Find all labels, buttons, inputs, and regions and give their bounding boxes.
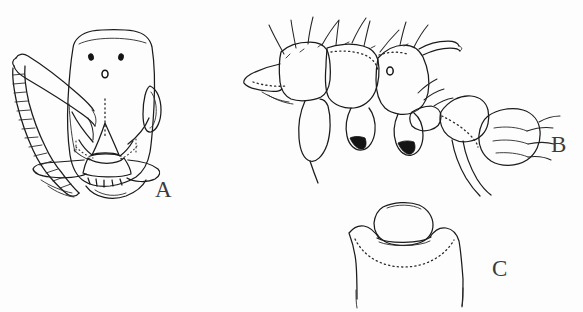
coxa-foreleg [299,99,330,161]
propodeum-outline [376,45,429,114]
panel-b-mesosoma: B [244,17,567,196]
metapleuron-outline [410,106,441,131]
clypeal-support-right [120,141,133,156]
head-vertex-line [79,38,146,44]
clypeus-outline [92,123,119,155]
propodeal-spiracle-icon [387,67,393,75]
panel-c-label: C [492,256,507,281]
clypeus-anterior-margin [90,154,121,156]
clypeal-support-left [79,140,92,155]
panel-b-label: B [551,132,566,157]
ocellus-median-icon [102,70,108,78]
postpetiole-dorsal-outline [374,203,433,246]
petiole-suture-dotted [442,116,478,147]
postpetiole-dorsal-highlight [387,205,421,209]
labrum-outline [83,158,131,177]
frontal-carina-left [72,112,93,142]
mandible-blade-inner [95,190,126,195]
antenna-scape-base-cap [13,58,16,66]
plate-canvas: A [0,0,583,312]
panel-a-label: A [155,177,172,202]
gaster-suture-dotted-arc [355,239,454,267]
ocellus-right-icon [118,53,124,61]
illustration-plate: A [0,0,583,312]
metapleural-setae [418,79,453,106]
leg-stroke-fore [310,161,318,183]
panel-a-head: A [13,30,172,203]
panel-c-petiole-dorsal: C [349,203,507,308]
funiculus-segment-divisions [13,74,71,188]
leg-stroke-hind-lower-2 [463,141,491,195]
petiole-node-outline [440,96,489,142]
leg-stroke-hind-lower [452,140,480,196]
propodeal-process-lower [423,48,460,55]
mesonotum-outline [325,44,379,108]
antenna-scape-upper [16,54,94,111]
head-lateral-margin-left [69,104,75,152]
gaster-tergite-outline [349,226,463,306]
dorsal-setae [269,17,428,54]
frontal-carina-right [128,118,149,144]
ocellus-left-icon [88,53,95,61]
pronotum-outline [279,42,330,101]
cervix-neck [244,64,282,91]
gaster-sternite-lines [493,127,528,157]
trochanter-hindleg-dark [398,141,415,154]
mesonotum-suture-dotted [331,51,378,70]
